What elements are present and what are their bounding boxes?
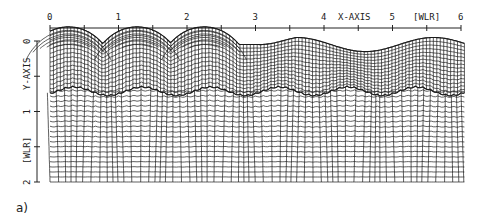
mesh-figure: 0123456 012 X-AXIS [WLR] Y-AXIS [WLR] a) (0, 0, 491, 220)
y-axis-title: Y-AXIS (22, 57, 32, 90)
x-tick-label: 5 (390, 12, 395, 22)
y-tick-label: 0 (22, 39, 32, 44)
x-tick-label: 3 (253, 12, 258, 22)
x-tick-label: 2 (184, 12, 189, 22)
x-axis-unit: [WLR] (413, 12, 440, 22)
deformed-mesh (26, 27, 464, 182)
x-tick-label: 6 (458, 12, 463, 22)
y-tick-label: 2 (22, 180, 32, 185)
x-axis-tick-labels: 0123456 (47, 12, 463, 22)
figure-caption: a) (16, 201, 28, 215)
y-axis-unit: [WLR] (22, 137, 32, 164)
x-axis-title: X-AXIS (338, 12, 371, 22)
x-tick-label: 0 (47, 12, 52, 22)
x-tick-label: 1 (116, 12, 121, 22)
x-tick-label: 4 (321, 12, 326, 22)
y-tick-label: 1 (22, 109, 32, 114)
